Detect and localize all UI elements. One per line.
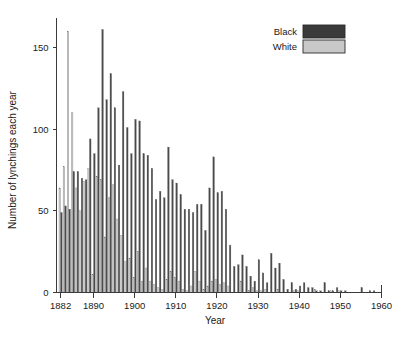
bar-black-1914 <box>192 212 194 292</box>
bar-black-1892 <box>102 29 104 292</box>
bar-black-1955 <box>361 288 363 293</box>
bar-black-1918 <box>209 188 211 293</box>
bar-white-1914 <box>191 286 193 293</box>
bar-white-1896 <box>117 219 119 293</box>
bar-white-1923 <box>228 286 230 293</box>
bar-black-1930 <box>258 260 260 293</box>
bar-white-1921 <box>219 284 221 292</box>
bar-black-1908 <box>168 147 170 292</box>
bar-black-1934 <box>275 268 277 293</box>
bar-black-1899 <box>131 154 133 293</box>
legend-swatch-black <box>303 25 345 38</box>
bar-black-1896 <box>118 165 120 292</box>
bar-white-1882 <box>59 188 61 293</box>
bar-black-1907 <box>163 198 165 293</box>
bar-black-1903 <box>147 155 149 292</box>
bar-black-1895 <box>114 108 116 293</box>
bar-white-1916 <box>199 281 201 292</box>
x-tick-label-1930: 1930 <box>248 300 269 311</box>
bar-white-1904 <box>149 281 151 292</box>
bar-black-1932 <box>266 283 268 293</box>
bar-white-1884 <box>67 31 69 292</box>
bar-white-1903 <box>145 268 147 293</box>
x-tick-label-1940: 1940 <box>289 300 310 311</box>
bar-white-1919 <box>211 281 213 292</box>
x-tick-label-1920: 1920 <box>206 300 227 311</box>
bar-white-1883 <box>63 167 65 293</box>
x-tick-label-1882: 1882 <box>50 300 71 311</box>
bar-black-1940 <box>299 286 301 293</box>
bar-white-1909 <box>170 271 172 292</box>
bar-black-1933 <box>270 253 272 292</box>
bar-black-1913 <box>188 209 190 292</box>
y-tick-label-0: 0 <box>43 287 48 298</box>
bar-white-1898 <box>125 261 127 292</box>
bar-black-1883 <box>65 206 67 293</box>
bar-black-1923 <box>229 245 231 292</box>
x-axis-ticks: 188218901900191019201930194019501960 <box>50 293 392 311</box>
bar-black-1898 <box>126 127 128 292</box>
lynchings-bar-chart: 050100150 188218901900191019201930194019… <box>0 0 403 338</box>
bar-black-1941 <box>303 283 305 293</box>
bar-black-1911 <box>180 194 182 292</box>
bar-white-1922 <box>224 283 226 293</box>
bar-white-1901 <box>137 252 139 293</box>
bar-black-1928 <box>250 276 252 292</box>
bar-black-1942 <box>307 288 309 293</box>
bar-black-1922 <box>225 209 227 292</box>
bar-black-1891 <box>98 108 100 293</box>
bar-white-1897 <box>121 235 123 292</box>
bar-black-1902 <box>143 154 145 293</box>
bar-black-1929 <box>254 281 256 292</box>
bar-white-1918 <box>207 286 209 293</box>
y-axis-ticks: 050100150 <box>33 42 57 298</box>
bar-black-1927 <box>246 266 248 292</box>
bar-black-1936 <box>283 279 285 292</box>
bar-black-1905 <box>155 199 157 292</box>
bar-black-1885 <box>73 172 75 293</box>
bar-white-1886 <box>75 188 77 293</box>
x-tick-label-1890: 1890 <box>83 300 104 311</box>
y-tick-label-100: 100 <box>33 124 49 135</box>
bar-black-1887 <box>81 178 83 292</box>
bar-black-1924 <box>233 266 235 292</box>
x-tick-label-1900: 1900 <box>124 300 145 311</box>
bar-black-1897 <box>122 92 124 293</box>
bar-white-1906 <box>158 288 160 293</box>
bar-black-1886 <box>77 172 79 293</box>
bar-black-1882 <box>61 212 63 292</box>
bar-black-1919 <box>213 157 215 293</box>
bar-white-1926 <box>240 281 242 292</box>
bar-black-1921 <box>221 191 223 292</box>
bar-black-1949 <box>336 288 338 293</box>
bar-white-1911 <box>178 281 180 292</box>
x-tick-label-1910: 1910 <box>165 300 186 311</box>
y-axis-label: Number of lynchings each year <box>7 90 18 229</box>
x-tick-label-1960: 1960 <box>371 300 392 311</box>
bar-black-1906 <box>159 191 161 292</box>
bar-black-1935 <box>279 263 281 292</box>
bar-white-1894 <box>108 198 110 293</box>
bar-black-1938 <box>291 283 293 293</box>
bar-black-1894 <box>110 74 112 293</box>
bar-white-1888 <box>84 181 86 292</box>
legend-swatch-white <box>303 40 345 53</box>
bar-black-1909 <box>172 180 174 293</box>
bars-layer <box>59 29 375 292</box>
bar-black-1925 <box>238 265 240 293</box>
bar-black-1901 <box>139 121 141 293</box>
bar-black-1893 <box>106 100 108 293</box>
x-axis-label: Year <box>205 315 226 326</box>
bar-white-1905 <box>154 284 156 292</box>
bar-black-1900 <box>135 119 137 292</box>
bar-white-1893 <box>104 237 106 293</box>
bar-black-1910 <box>176 183 178 292</box>
bar-white-1895 <box>112 185 114 293</box>
bar-black-1931 <box>262 273 264 293</box>
bar-white-1920 <box>215 279 217 292</box>
bar-black-1915 <box>196 204 198 292</box>
bar-white-1885 <box>71 113 73 293</box>
bar-white-1899 <box>129 258 131 292</box>
bar-black-1904 <box>151 168 153 292</box>
bar-white-1929 <box>252 288 254 293</box>
